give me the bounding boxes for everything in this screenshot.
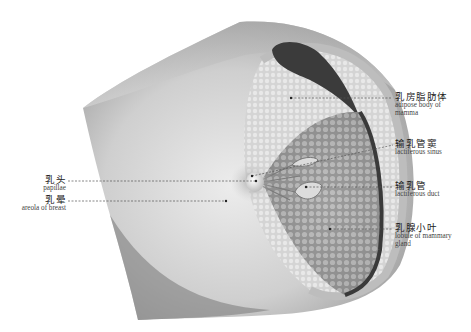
label-en: lactiferous sinus xyxy=(395,149,442,157)
label-en: areola of breast xyxy=(22,205,66,213)
label-en: gland xyxy=(395,241,452,249)
label-areola: 乳晕 areola of breast xyxy=(22,195,66,213)
label-adipose-body: 乳房脂肪体 adipose body of mamma xyxy=(395,92,448,117)
label-lactiferous-sinus: 输乳管窦 lactiferous sinus xyxy=(395,139,442,157)
label-papillae: 乳头 papillae xyxy=(43,175,66,193)
label-lobule-mammary-gland: 乳腺小叶 lobule of mammary gland xyxy=(395,223,452,248)
label-en: mamma xyxy=(395,110,448,118)
label-en: papillae xyxy=(43,185,66,193)
label-en: lactiferous duct xyxy=(395,191,440,199)
nipple xyxy=(246,172,264,192)
breast-anatomy-illustration xyxy=(0,0,471,332)
label-lactiferous-duct: 输乳管 lactiferous duct xyxy=(395,181,440,199)
